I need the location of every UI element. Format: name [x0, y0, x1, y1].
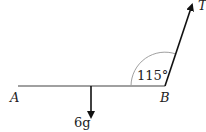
label-point-a: A [9, 90, 19, 105]
label-angle: 115° [137, 68, 168, 83]
label-tension: T [198, 0, 206, 13]
diagram-canvas: A B T 6g 115° [0, 0, 206, 132]
label-weight: 6g [74, 115, 91, 130]
label-point-b: B [159, 90, 170, 105]
tension-force-arrow [165, 5, 192, 86]
